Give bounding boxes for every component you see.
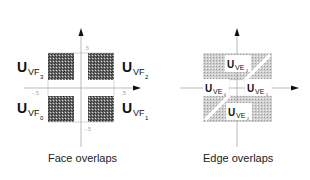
label-uve1: U VE 1 xyxy=(245,79,272,97)
caption-face-overlaps: Face overlaps xyxy=(48,152,117,164)
svg-text:U: U xyxy=(205,83,212,94)
svg-text:VE: VE xyxy=(236,112,246,119)
svg-text:VF: VF xyxy=(133,67,145,77)
svg-text:VE: VE xyxy=(213,88,223,95)
vf2-region xyxy=(88,53,114,80)
svg-text:VF: VF xyxy=(28,108,40,118)
label-uvf1: U VF 1 xyxy=(122,100,149,121)
tick-label-top: .5 xyxy=(84,45,90,51)
edge-x-axis-arrow-icon xyxy=(291,86,299,91)
label-uvf0: U VF 0 xyxy=(17,100,44,121)
svg-text:U: U xyxy=(17,59,27,75)
svg-text:VF: VF xyxy=(28,67,40,77)
svg-text:VE: VE xyxy=(255,88,265,95)
face-overlaps-panel: .5 -.5 -.5 .5 U VF 3 U VF 2 U VF 0 U VF … xyxy=(17,28,149,147)
svg-text:U: U xyxy=(17,100,27,116)
svg-text:VE: VE xyxy=(235,64,245,71)
svg-text:2: 2 xyxy=(145,74,149,80)
label-uvf3: U VF 3 xyxy=(17,59,44,80)
tick-label-left: -.5 xyxy=(32,90,40,96)
svg-text:U: U xyxy=(227,59,234,70)
label-uve2: U VE 2 xyxy=(226,103,252,121)
tick-label-right: .5 xyxy=(121,90,127,96)
label-uve0: U VE 0 xyxy=(203,79,229,97)
tick-label-bottom: -.5 xyxy=(84,126,92,132)
svg-text:U: U xyxy=(228,107,235,118)
x-axis-arrow-icon xyxy=(133,86,141,91)
svg-text:VF: VF xyxy=(133,108,145,118)
caption-edge-overlaps: Edge overlaps xyxy=(203,152,273,164)
edge-overlaps-panel: U VE 3 U VE 0 U VE 1 U VE 2 xyxy=(180,28,299,147)
svg-text:1: 1 xyxy=(145,115,149,121)
svg-text:U: U xyxy=(247,83,254,94)
svg-text:0: 0 xyxy=(40,115,44,121)
svg-text:0: 0 xyxy=(224,93,226,97)
y-axis-arrow-icon xyxy=(79,28,84,36)
label-uve3: U VE 3 xyxy=(225,55,251,73)
vf3-region xyxy=(48,53,74,80)
vf1-region xyxy=(88,96,114,122)
svg-text:3: 3 xyxy=(40,74,44,80)
svg-text:2: 2 xyxy=(247,117,249,121)
svg-text:U: U xyxy=(122,59,132,75)
label-uvf2: U VF 2 xyxy=(122,59,149,80)
svg-text:1: 1 xyxy=(266,93,268,97)
vf0-region xyxy=(48,96,74,122)
svg-text:U: U xyxy=(122,100,132,116)
svg-text:3: 3 xyxy=(246,69,248,73)
edge-y-axis-arrow-icon xyxy=(235,28,240,36)
